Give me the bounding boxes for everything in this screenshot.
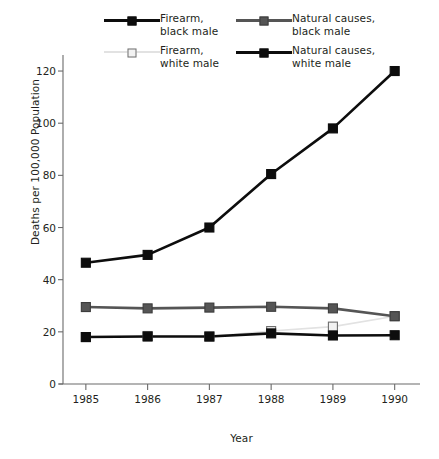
x-axis-tick-label: 1987 — [186, 394, 232, 405]
series-marker — [81, 258, 90, 267]
series-marker — [328, 124, 337, 133]
series-marker — [205, 303, 214, 312]
x-axis-tick-label: 1989 — [310, 394, 356, 405]
series-marker — [205, 223, 214, 232]
series-marker — [81, 303, 90, 312]
series-marker — [267, 329, 276, 338]
series-marker — [205, 332, 214, 341]
x-axis-tick-label: 1988 — [248, 394, 294, 405]
series-marker — [328, 322, 337, 331]
chart-page: Firearm, black male Natural causes, blac… — [0, 0, 439, 459]
series-marker — [328, 304, 337, 313]
series-marker — [143, 304, 152, 313]
series-marker — [81, 333, 90, 342]
series-marker — [267, 302, 276, 311]
series-line — [86, 333, 395, 337]
plot-area: 020406080100120 198519861987198819891990… — [0, 0, 439, 459]
series-marker — [390, 331, 399, 340]
series-marker — [328, 331, 337, 340]
x-axis-title: Year — [63, 432, 420, 444]
series-marker — [143, 250, 152, 259]
series-marker — [390, 312, 399, 321]
series-line — [86, 307, 395, 316]
chart-canvas — [0, 0, 439, 459]
series-marker — [390, 67, 399, 76]
series-marker — [143, 332, 152, 341]
x-axis-tick-label: 1985 — [63, 394, 109, 405]
series-marker — [267, 170, 276, 179]
series-line — [86, 71, 395, 263]
y-axis-tick-label: 20 — [22, 327, 56, 338]
y-axis-tick-label: 40 — [22, 275, 56, 286]
y-axis-title: Deaths per 100,000 Population — [29, 67, 41, 257]
y-axis-tick-label: 0 — [22, 379, 56, 390]
x-axis-tick-label: 1986 — [125, 394, 171, 405]
x-axis-tick-label: 1990 — [372, 394, 418, 405]
